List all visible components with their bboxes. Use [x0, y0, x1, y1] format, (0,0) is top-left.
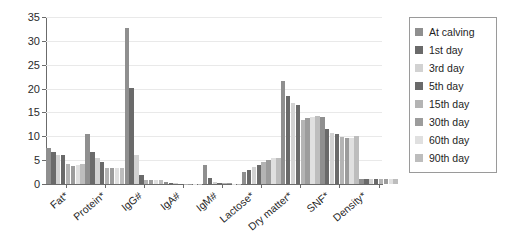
bar-group: [359, 17, 398, 184]
x-tick-label: IgG#: [120, 190, 144, 213]
x-axis-labels: Fat*Protein*IgG#IgA#IgM#Lactose*Dry matt…: [46, 186, 382, 244]
x-tick-label: Fat*: [48, 190, 70, 210]
bar: [208, 178, 212, 184]
bar: [164, 182, 168, 184]
bar: [56, 155, 60, 184]
legend-item[interactable]: 90th day: [415, 149, 492, 167]
y-tick-mark: [42, 184, 46, 185]
bar-group: [124, 17, 163, 184]
legend-swatch-icon: [415, 118, 423, 126]
legend: At calving1st day3rd day5th day15th day3…: [409, 17, 497, 173]
bar: [139, 175, 143, 184]
bar: [203, 165, 207, 184]
bar-group: [85, 17, 124, 184]
legend-label: 15th day: [429, 99, 469, 110]
legend-item[interactable]: 60th day: [415, 131, 492, 149]
y-tick-label: 0: [34, 179, 40, 190]
x-label-cell: IgG#: [121, 186, 158, 244]
bar: [95, 158, 99, 184]
legend-item[interactable]: At calving: [415, 23, 492, 41]
legend-swatch-icon: [415, 46, 423, 54]
y-tick-label: 30: [28, 35, 40, 46]
x-tick-label: SNF*: [305, 190, 331, 214]
y-tick-label: 25: [28, 59, 40, 70]
plot-area: 05101520253035: [46, 17, 382, 184]
bar: [134, 155, 138, 184]
legend-swatch-icon: [415, 154, 423, 162]
bar-group: [242, 17, 281, 184]
bar: [66, 164, 70, 184]
legend-label: 90th day: [429, 153, 469, 164]
bar-groups: [46, 17, 382, 184]
legend-swatch-icon: [415, 136, 423, 144]
legend-label: 3rd day: [429, 63, 464, 74]
x-label-cell: Dry matter*: [270, 186, 307, 244]
legend-label: 30th day: [429, 117, 469, 128]
x-label-cell: Protein*: [83, 186, 120, 244]
x-tick-label: IgM#: [194, 190, 219, 213]
x-tick-label: IgA#: [158, 190, 181, 212]
legend-item[interactable]: 15th day: [415, 95, 492, 113]
bar: [51, 152, 55, 184]
legend-label: 60th day: [429, 135, 469, 146]
bar: [100, 162, 104, 184]
bar: [125, 28, 129, 185]
y-tick-label: 15: [28, 107, 40, 118]
legend-item[interactable]: 30th day: [415, 113, 492, 131]
bar: [359, 179, 363, 184]
legend-label: 5th day: [429, 81, 463, 92]
bar: [393, 179, 397, 184]
legend-swatch-icon: [415, 82, 423, 90]
legend-label: At calving: [429, 27, 475, 38]
legend-swatch-icon: [415, 28, 423, 36]
bar: [173, 183, 177, 184]
bar: [46, 148, 50, 184]
bar: [252, 167, 256, 184]
legend-swatch-icon: [415, 64, 423, 72]
x-label-cell: IgA#: [158, 186, 195, 244]
bar-chart: 05101520253035 Fat*Protein*IgG#IgA#IgM#L…: [0, 0, 506, 245]
bar-group: [203, 17, 242, 184]
bar: [291, 103, 295, 184]
bar: [169, 183, 173, 184]
bar-group: [281, 17, 320, 184]
bar-group: [163, 17, 202, 184]
bar: [349, 138, 353, 184]
y-tick-label: 20: [28, 83, 40, 94]
y-tick-label: 10: [28, 131, 40, 142]
legend-item[interactable]: 3rd day: [415, 59, 492, 77]
bar: [85, 134, 89, 184]
y-tick-label: 35: [28, 12, 40, 23]
bar: [247, 170, 251, 184]
bar: [242, 172, 246, 184]
bar: [61, 155, 65, 184]
bar: [90, 152, 94, 184]
legend-item[interactable]: 1st day: [415, 41, 492, 59]
legend-item[interactable]: 5th day: [415, 77, 492, 95]
y-tick-label: 5: [34, 155, 40, 166]
bar-group: [46, 17, 85, 184]
bar: [213, 182, 217, 184]
bar: [296, 105, 300, 184]
legend-swatch-icon: [415, 100, 423, 108]
x-label-cell: Density*: [345, 186, 382, 244]
legend-label: 1st day: [429, 45, 463, 56]
